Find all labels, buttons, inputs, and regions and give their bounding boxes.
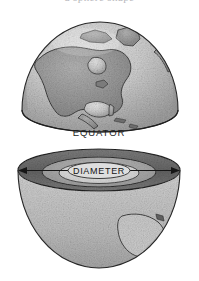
upper-hemisphere-group: EQUATOR bbox=[22, 22, 178, 138]
equator-label: EQUATOR bbox=[73, 127, 125, 138]
earth-hemispheres-figure: a sphere shape bbox=[0, 0, 199, 281]
diameter-label: DIAMETER bbox=[73, 166, 125, 176]
earth-diagram-svg: EQUATOR bbox=[0, 0, 199, 281]
lower-hemisphere-group: DIAMETER bbox=[16, 149, 182, 268]
hudson-bay-shape bbox=[88, 57, 106, 74]
globe-specular-highlight bbox=[52, 28, 120, 56]
